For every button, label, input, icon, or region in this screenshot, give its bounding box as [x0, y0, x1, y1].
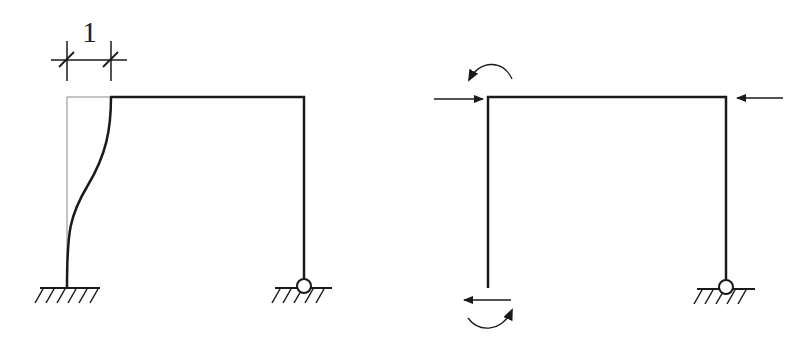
left-frame: 1	[35, 15, 332, 303]
original-column	[67, 97, 111, 288]
pin-support-icon	[694, 280, 755, 304]
fixed-support-icon	[35, 288, 100, 303]
deformed-column	[67, 97, 111, 288]
moment-arrow-icon	[468, 310, 512, 328]
pin-support-icon	[272, 279, 332, 303]
structural-diagram: 1	[0, 0, 806, 344]
moment-arrow-icon	[469, 64, 512, 80]
dimension-label: 1	[82, 15, 97, 48]
right-frame	[434, 64, 783, 328]
dimension-marker: 1	[51, 15, 127, 81]
